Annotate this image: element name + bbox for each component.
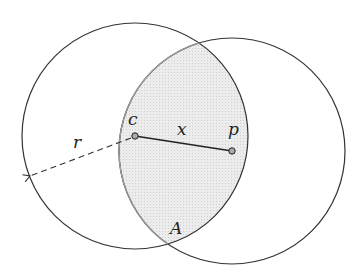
- label-A: A: [168, 218, 182, 238]
- point-c-icon: [132, 133, 138, 139]
- label-r: r: [73, 132, 82, 152]
- point-p-icon: [229, 148, 235, 154]
- label-c: c: [128, 109, 138, 129]
- diagram-svg: c p x r A: [0, 0, 360, 275]
- diagram-canvas: c p x r A: [0, 0, 360, 275]
- label-p: p: [228, 119, 239, 139]
- label-x: x: [177, 119, 187, 139]
